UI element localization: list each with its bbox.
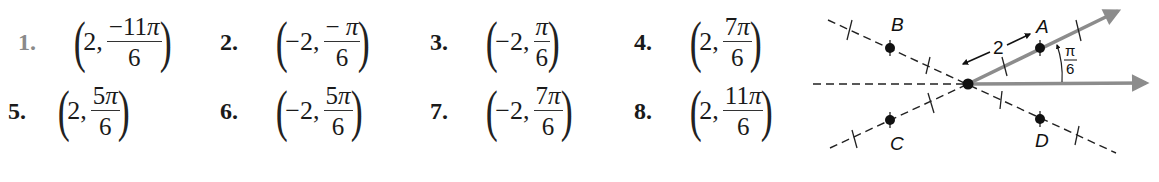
left-paren: (	[486, 13, 498, 71]
theta-numerator: 11π	[723, 83, 764, 111]
problem-number: 4.	[634, 29, 686, 56]
polar-r: 2,	[699, 96, 719, 126]
right-paren: )	[118, 82, 130, 140]
theta-denominator: 6	[336, 42, 349, 70]
polar-r: 2,	[67, 96, 87, 126]
polar-r: 2,	[699, 27, 719, 57]
polar-theta: −11π 6	[107, 14, 162, 70]
right-paren: )	[350, 82, 362, 140]
polar-theta: 7π 6	[534, 83, 563, 139]
polar-theta: 7π 6	[723, 14, 752, 70]
problem-number: 2.	[220, 29, 272, 56]
label-a: A	[1035, 16, 1049, 37]
polar-theta: 11π 6	[723, 83, 764, 139]
theta-denominator: 6	[731, 42, 744, 70]
problem-4: 4. ( 2, 7π 6 )	[634, 11, 765, 73]
left-paren: (	[690, 13, 702, 71]
problem-number: 3.	[430, 29, 482, 56]
problem-7: 7. ( −2, 7π 6 )	[430, 80, 576, 142]
left-paren: (	[276, 82, 288, 140]
theta-denominator: 6	[536, 42, 549, 70]
right-paren: )	[159, 13, 171, 71]
theta-numerator: −11π	[107, 14, 162, 42]
polar-diagram: A B C D 2 π 6	[800, 0, 1159, 182]
angle-label-numerator: π	[1065, 42, 1075, 59]
theta-denominator: 6	[128, 42, 141, 70]
polar-theta: 5π 6	[91, 83, 120, 139]
label-d: D	[1035, 130, 1049, 151]
distance-arrow-left	[963, 52, 990, 64]
left-paren: (	[74, 13, 86, 71]
problem-number: 8.	[634, 98, 686, 125]
problem-1: 1. ( 2, −11π 6 )	[18, 11, 175, 73]
right-paren: )	[761, 82, 773, 140]
problem-6: 6. ( −2, 5π 6 )	[220, 80, 366, 142]
theta-denominator: 6	[332, 111, 345, 139]
problem-8: 8. ( 2, 11π 6 )	[634, 80, 777, 142]
polar-r: −2,	[495, 96, 529, 126]
label-c: C	[890, 133, 904, 154]
polar-theta: − π 6	[324, 14, 361, 70]
problem-number: 6.	[220, 98, 272, 125]
left-paren: (	[486, 82, 498, 140]
polar-r: 2,	[83, 27, 103, 57]
polar-axis-ray	[968, 83, 1146, 84]
theta-numerator: 5π	[91, 83, 120, 111]
left-paren: (	[276, 13, 288, 71]
problem-2: 2. ( −2, − π 6 )	[220, 11, 374, 73]
theta-denominator: 6	[99, 111, 112, 139]
problem-number: 5.	[8, 98, 54, 125]
problem-3: 3. ( −2, π 6 )	[430, 11, 563, 73]
right-paren: )	[358, 13, 370, 71]
distance-label: 2	[993, 37, 1004, 58]
right-paren: )	[560, 82, 572, 140]
pole-point	[963, 79, 974, 90]
theta-denominator: 6	[542, 111, 555, 139]
problem-number: 7.	[430, 98, 482, 125]
problem-number: 1.	[18, 29, 70, 56]
right-paren: )	[750, 13, 762, 71]
distance-arrow-right	[1007, 34, 1030, 45]
left-paren: (	[690, 82, 702, 140]
right-paren: )	[548, 13, 560, 71]
angle-label-denominator: 6	[1066, 60, 1074, 77]
polar-r: −2,	[495, 27, 529, 57]
theta-numerator: − π	[324, 14, 361, 42]
polar-r: −2,	[285, 96, 319, 126]
label-b: B	[891, 14, 904, 35]
theta-numerator: 7π	[723, 14, 752, 42]
angle-arc	[1057, 45, 1062, 82]
polar-r: −2,	[285, 27, 319, 57]
polar-theta: 5π 6	[324, 83, 353, 139]
theta-numerator: 5π	[324, 83, 353, 111]
theta-denominator: 6	[737, 111, 750, 139]
theta-numerator: 7π	[534, 83, 563, 111]
left-paren: (	[58, 82, 70, 140]
problem-5: 5. ( 2, 5π 6 )	[8, 80, 133, 142]
